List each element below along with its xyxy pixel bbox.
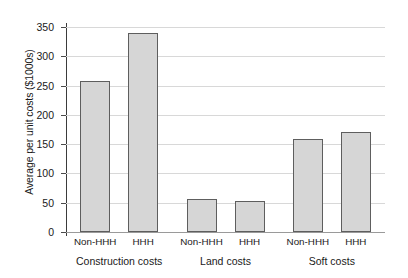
y-tick-label-50: 50 xyxy=(0,197,54,209)
x-subcategory-label-non-hhh: Non-HHH xyxy=(180,236,222,247)
plot-area xyxy=(66,27,385,232)
gridline-100 xyxy=(66,173,385,174)
x-subcategory-label-non-hhh: Non-HHH xyxy=(287,236,329,247)
x-axis-baseline xyxy=(66,232,385,233)
x-subcategory-label-hhh: HHH xyxy=(133,236,154,247)
x-subcategory-label-hhh: HHH xyxy=(345,236,366,247)
y-tick-label-200: 200 xyxy=(0,109,54,121)
bar-soft-costs-hhh xyxy=(341,132,371,232)
gridline-300 xyxy=(66,56,385,57)
bar-land-costs-hhh xyxy=(235,201,265,232)
gridline-50 xyxy=(66,203,385,204)
bar-land-costs-non-hhh xyxy=(187,199,217,232)
y-tick-200 xyxy=(61,115,66,116)
y-tick-100 xyxy=(61,173,66,174)
x-subcategory-label-hhh: HHH xyxy=(239,236,260,247)
bar-construction-costs-hhh xyxy=(128,33,158,232)
gridline-200 xyxy=(66,115,385,116)
y-tick-150 xyxy=(61,144,66,145)
x-subcategory-label-non-hhh: Non-HHH xyxy=(74,236,116,247)
bar-soft-costs-non-hhh xyxy=(293,139,323,232)
y-tick-label-250: 250 xyxy=(0,80,54,92)
y-tick-label-150: 150 xyxy=(0,138,54,150)
gridline-350 xyxy=(66,27,385,28)
gridline-250 xyxy=(66,86,385,87)
bar-chart: Average per unit costs ($1000s) 05010015… xyxy=(0,0,408,278)
y-tick-label-300: 300 xyxy=(0,50,54,62)
y-tick-label-0: 0 xyxy=(0,226,54,238)
x-group-label-land-costs: Land costs xyxy=(200,255,251,267)
x-group-label-soft-costs: Soft costs xyxy=(309,255,355,267)
y-tick-350 xyxy=(61,27,66,28)
x-group-label-construction-costs: Construction costs xyxy=(76,255,162,267)
y-tick-250 xyxy=(61,86,66,87)
gridline-150 xyxy=(66,144,385,145)
bar-construction-costs-non-hhh xyxy=(80,81,110,232)
y-tick-50 xyxy=(61,203,66,204)
y-tick-label-100: 100 xyxy=(0,167,54,179)
y-tick-300 xyxy=(61,56,66,57)
y-tick-label-350: 350 xyxy=(0,21,54,33)
